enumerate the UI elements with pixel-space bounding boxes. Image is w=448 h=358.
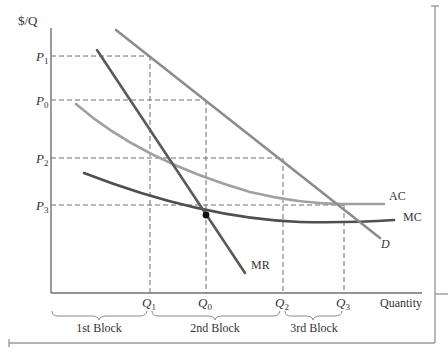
block-1-label: 1st Block: [76, 321, 122, 335]
q1-label: Q1: [142, 295, 156, 312]
d-label: D: [380, 237, 390, 251]
mc-curve: [84, 173, 394, 222]
q0-label: Q0: [198, 295, 212, 312]
p0-label: P0: [35, 93, 49, 110]
brace-block-1: [52, 311, 147, 320]
brace-block-3: [285, 311, 342, 320]
q2-label: Q2: [275, 295, 289, 312]
mr-mc-intersection-point: [203, 212, 210, 219]
block-2-label: 2nd Block: [190, 321, 240, 335]
block-braces: [52, 311, 342, 320]
p2-label: P2: [35, 151, 48, 168]
demand-curve: [116, 30, 380, 238]
x-tick-labels: Q1 Q0 Q2 Q3: [142, 295, 350, 312]
block-3-label: 3rd Block: [290, 321, 338, 335]
q3-label: Q3: [336, 295, 350, 312]
block-pricing-chart: $/Q Quantity P1 P0 P2 P3 Q1 Q0 Q2 Q3 AC …: [0, 0, 448, 358]
x-axis-label: Quantity: [380, 296, 422, 310]
y-axis-label: $/Q: [18, 13, 38, 28]
ac-label: AC: [389, 189, 406, 203]
mr-label: MR: [251, 258, 270, 272]
axes: [51, 28, 422, 293]
p1-label: P1: [35, 49, 48, 66]
p3-label: P3: [35, 198, 49, 215]
y-tick-labels: P1 P0 P2 P3: [35, 49, 49, 215]
brace-block-2: [152, 311, 280, 320]
mc-label: MC: [403, 210, 422, 224]
mr-curve: [97, 50, 245, 273]
